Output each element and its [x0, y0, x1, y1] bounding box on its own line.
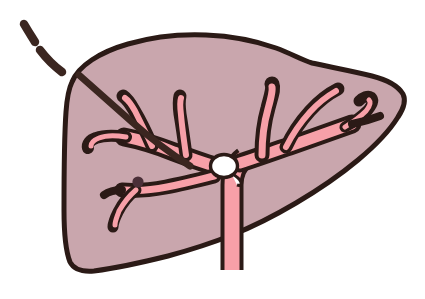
lesion-dot-marker — [132, 176, 143, 187]
needle-dash-segment-2 — [40, 50, 62, 72]
needle-dash-segment-1 — [24, 24, 35, 42]
liver-illustration: Liver with portal venous anatomy and per… — [0, 0, 425, 299]
liver-diagram-svg — [0, 0, 425, 299]
marker-circle-icon — [211, 155, 238, 178]
